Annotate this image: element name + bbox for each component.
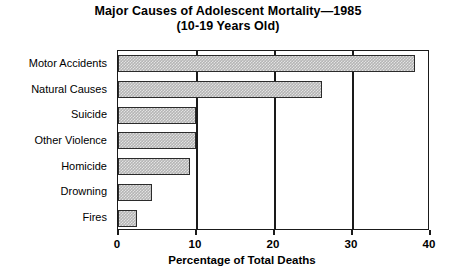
bar-row [118, 102, 428, 128]
bar-row [118, 205, 428, 231]
y-axis-label: Homicide [61, 153, 107, 179]
y-axis-label: Other Violence [34, 127, 107, 153]
bar [118, 107, 196, 124]
bar-row [118, 51, 428, 77]
x-tick-label: 20 [253, 238, 293, 250]
y-axis-label: Suicide [71, 101, 107, 127]
plot-area [117, 50, 429, 230]
bar-row [118, 180, 428, 206]
bar-series [118, 51, 428, 229]
y-axis-label: Motor Accidents [29, 50, 107, 76]
bar [118, 158, 190, 175]
bar-row [118, 128, 428, 154]
chart-figure: Major Causes of Adolescent Mortality—198… [0, 0, 456, 274]
bar [118, 55, 415, 72]
x-tick-mark-40 [429, 230, 431, 235]
bar-row [118, 77, 428, 103]
y-axis-label: Fires [83, 204, 107, 230]
y-axis-label: Natural Causes [31, 76, 107, 102]
x-tick-label: 40 [409, 238, 449, 250]
x-tick-label: 0 [97, 238, 137, 250]
bar [118, 132, 196, 149]
x-tick-mark-20 [273, 230, 275, 235]
bar-row [118, 154, 428, 180]
y-axis-label: Drowning [61, 179, 107, 205]
x-tick-label: 10 [175, 238, 215, 250]
bar [118, 210, 137, 227]
x-axis-title: Percentage of Total Deaths [0, 254, 456, 266]
y-axis-category-labels: Motor AccidentsNatural CausesSuicideOthe… [0, 50, 112, 230]
bar [118, 184, 152, 201]
chart-subtitle: (10-19 Years Old) [0, 19, 456, 34]
chart-title-block: Major Causes of Adolescent Mortality—198… [0, 4, 456, 34]
x-tick-mark-30 [351, 230, 353, 235]
x-tick-label: 30 [331, 238, 371, 250]
bar [118, 81, 322, 98]
x-tick-mark-10 [195, 230, 197, 235]
page-title: Major Causes of Adolescent Mortality—198… [0, 4, 456, 19]
x-tick-mark-0 [117, 230, 119, 235]
